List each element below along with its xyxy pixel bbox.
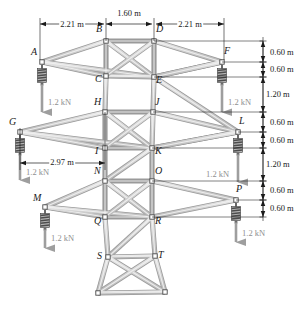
truss-member-highlight [45,181,105,207]
truss-joint-m [43,205,47,209]
joint-label-e: E [156,75,162,85]
joint-label-d: D [156,24,163,34]
load-label-a: 1.2 kN [48,98,71,107]
truss-member-highlight [152,181,236,200]
joint-label-g: G [9,117,16,127]
joint-label-s: S [97,251,102,261]
joint-label-q: Q [94,216,101,226]
joint-label-h: H [94,97,101,107]
truss-member-highlight [42,41,106,62]
load-label-g: 1.2 kN [26,168,49,177]
load-label-m: 1.2 kN [51,234,74,243]
horizontal-dimension-label: 2.21 m [177,20,203,29]
truss-member-highlight [105,148,152,181]
spring-support [41,210,50,231]
truss-joint-c [104,74,108,78]
truss-member-highlight [108,217,152,257]
joint-label-o: O [155,166,162,176]
joint-label-m: M [33,193,41,203]
vertical-dimension-label: 0.60 m [270,186,294,195]
vertical-dimension-label: 1.20 m [266,160,290,169]
joint-label-f: F [224,46,230,56]
vertical-dimension-label: 0.60 m [270,204,294,213]
joint-label-b: B [96,24,102,34]
spring-support [234,135,243,156]
truss-joint-v [163,290,167,294]
vertical-dimension-label: 0.60 m [270,65,294,74]
joint-label-c: C [95,74,102,84]
truss-member-highlight [152,200,236,217]
vertical-dimension-label: 0.60 m [270,136,294,145]
horizontal-dimension-label: 1.60 m [116,9,142,18]
spring-support [218,65,227,86]
joint-label-j: J [155,97,159,107]
spring-support [38,65,47,86]
truss-diagram-canvas [0,0,306,330]
truss-joint-q [103,215,107,219]
horizontal-dimension-label: 2.97 m [49,158,75,167]
joint-label-i: I [95,146,98,156]
load-label-p: 1.2 kN [242,229,265,238]
truss-member-highlight [154,62,222,77]
joint-label-t: T [158,250,164,260]
load-label-l: 1.2 kN [206,170,229,179]
joint-label-n: N [94,166,101,176]
vertical-dimension-label: 1.20 m [266,90,290,99]
horizontal-dimension-label: 2.21 m [59,20,85,29]
vertical-dimension-label: 0.60 m [270,118,294,127]
joint-label-r: R [155,216,161,226]
truss-joint-n [103,179,107,183]
truss-member-highlight [154,41,222,62]
truss-member-highlight [152,132,238,148]
truss-member-highlight [20,112,105,132]
truss-joint-a [40,60,44,64]
joint-label-p: P [236,184,242,194]
vertical-dimension-label: 0.60 m [270,48,294,57]
joint-label-l: L [239,116,245,126]
joint-label-k: K [155,146,162,156]
truss-joint-t [153,254,157,258]
truss-joint-s [106,255,110,259]
truss-joint-u [96,291,100,295]
truss-figure: ABCDEFGHIJKLMNOPQRST 2.21 m1.60 m2.21 m2… [0,0,306,330]
joint-label-a: A [31,47,37,57]
spring-support [232,203,241,224]
load-label-f: 1.2 kN [228,98,251,107]
